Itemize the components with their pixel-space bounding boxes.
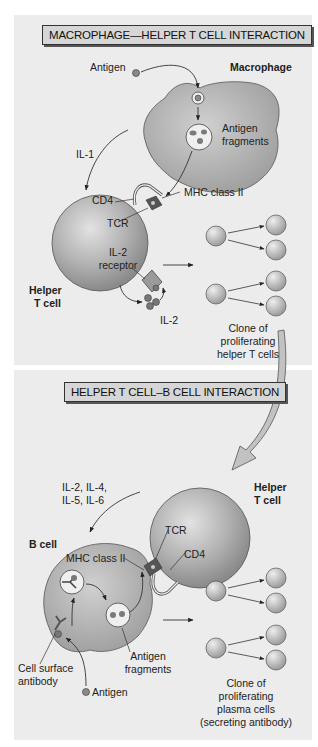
label-tcr-top: TCR bbox=[107, 217, 129, 230]
label-antigen-top: Antigen bbox=[90, 61, 126, 74]
label-cell-surface-antibody-2: antibody bbox=[18, 675, 58, 688]
label-cytokines-1: IL-2, IL-4, bbox=[62, 481, 107, 494]
label-helper-t-cell-top-2: T cell bbox=[34, 297, 61, 310]
label-clone-bottom-4: (secreting antibody) bbox=[190, 716, 302, 729]
helper-t-cell bbox=[52, 195, 148, 291]
label-antigen-bottom: Antigen bbox=[92, 686, 128, 699]
fragment-vesicle-bottom bbox=[106, 603, 130, 627]
label-clone-bottom-1: Clone of bbox=[196, 677, 296, 690]
label-cytokines-2: IL-5, IL-6 bbox=[62, 494, 104, 507]
label-helper-t-cell-bottom-1: Helper bbox=[254, 481, 287, 494]
label-clone-bottom-3: plasma cells bbox=[196, 703, 296, 716]
fragment-vesicle bbox=[186, 124, 212, 150]
label-helper-t-cell-bottom-2: T cell bbox=[254, 494, 281, 507]
panel-title-bottom: HELPER T CELL–B CELL INTERACTION bbox=[64, 382, 286, 402]
label-il1: IL-1 bbox=[76, 148, 94, 161]
label-mhc-top: MHC class II bbox=[184, 186, 244, 199]
il2-receptor bbox=[142, 270, 162, 292]
diagram-artwork bbox=[0, 0, 318, 747]
label-clone-top-2: proliferating bbox=[206, 335, 290, 348]
antigen-dot-bottom bbox=[83, 689, 90, 696]
helper-t-cell-bottom bbox=[150, 488, 250, 588]
label-clone-top-3: helper T cells bbox=[206, 348, 290, 361]
label-antigen-fragments-bottom-1: Antigen bbox=[120, 650, 176, 663]
label-cell-surface-antibody-1: Cell surface bbox=[18, 662, 73, 675]
label-antigen-fragments-bottom-2: fragments bbox=[120, 663, 176, 676]
label-antigen-fragments-top-1: Antigen bbox=[222, 122, 258, 135]
label-tcr-bottom: TCR bbox=[165, 524, 187, 537]
label-b-cell: B cell bbox=[29, 538, 57, 551]
il2-molecule bbox=[145, 295, 152, 302]
label-cd4-bottom: CD4 bbox=[184, 548, 205, 561]
label-il2-receptor-2: receptor bbox=[92, 259, 144, 272]
mhc-text: MHC class II bbox=[184, 186, 244, 198]
label-macrophage: Macrophage bbox=[230, 61, 292, 74]
label-il2: IL-2 bbox=[160, 314, 178, 327]
label-cd4-top: CD4 bbox=[92, 194, 113, 207]
label-clone-bottom-2: proliferating bbox=[196, 690, 296, 703]
antigen-dot bbox=[133, 70, 140, 77]
label-clone-top-1: Clone of bbox=[206, 322, 290, 335]
label-antigen-fragments-top-2: fragments bbox=[222, 135, 269, 148]
label-il2-receptor-1: IL-2 bbox=[98, 246, 138, 259]
helper-t-clone bbox=[206, 215, 286, 316]
label-helper-t-cell-top-1: Helper bbox=[29, 284, 62, 297]
label-mhc-bottom: MHC class II bbox=[66, 552, 126, 565]
panel-title-top: MACROPHAGE—HELPER T CELL INTERACTION bbox=[42, 25, 312, 45]
plasma-cell-clone bbox=[206, 568, 286, 670]
